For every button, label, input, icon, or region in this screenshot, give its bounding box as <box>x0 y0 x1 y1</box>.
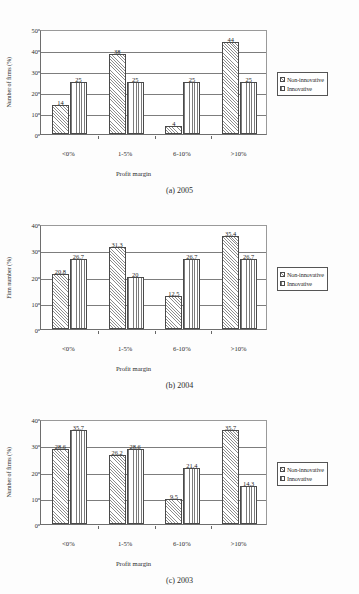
bar-innovative <box>183 468 200 524</box>
x-axis-ticks: <0%1-5%6-10%>10% <box>40 150 267 162</box>
bar-value-label: 35.7 <box>73 424 84 431</box>
x-tick-label: <0% <box>62 150 75 157</box>
bar-value-label: 25 <box>132 76 138 83</box>
y-tick-mark <box>38 135 40 136</box>
x-tick-label: <0% <box>62 345 75 352</box>
y-axis-ticks: 01020304050 <box>20 30 40 135</box>
x-tick-label: >10% <box>231 345 247 352</box>
bar-innovative <box>240 259 257 329</box>
bar-value-label: 20 <box>132 271 138 278</box>
bar-non-innovative <box>52 105 69 134</box>
legend-label-non-innovative: Non-innovative <box>287 466 324 473</box>
legend-label-innovative: Innovative <box>287 280 312 287</box>
y-tick-mark <box>38 303 40 304</box>
figure-caption: (b) 2004 <box>0 381 359 390</box>
y-tick-mark <box>38 72 40 73</box>
chart-legend: Non-innovativeInnovative <box>277 267 328 291</box>
bar-innovative <box>127 277 144 330</box>
legend-item-non-innovative: Non-innovative <box>280 465 324 474</box>
x-axis-label: Profit margin <box>0 170 267 177</box>
bar-non-innovative <box>165 126 182 134</box>
x-tick-mark <box>211 331 212 334</box>
bar-non-innovative <box>165 499 182 524</box>
legend-label-non-innovative: Non-innovative <box>287 76 324 83</box>
bar-innovative <box>183 259 200 329</box>
bar-value-label: 14 <box>57 99 63 106</box>
y-axis-ticks: 010203040 <box>20 420 40 525</box>
x-tick-label: 1-5% <box>118 150 132 157</box>
figure-2005: Number of firms (%)142538254254425010203… <box>0 14 359 199</box>
bar-value-label: 25 <box>189 76 195 83</box>
y-tick-mark <box>38 330 40 331</box>
legend-label-non-innovative: Non-innovative <box>287 271 324 278</box>
axes-frame: 20.826.731.32012.526.735.426.7 <box>40 225 267 330</box>
y-axis-label: Number of firms (%) <box>2 420 14 525</box>
bar-value-label: 20.8 <box>55 268 66 275</box>
x-axis-label: Profit margin <box>0 560 267 567</box>
y-axis-label: Number of firms (%) <box>2 30 14 135</box>
x-tick-mark <box>211 526 212 529</box>
x-tick-label: 6-10% <box>173 540 191 547</box>
x-tick-label: 1-5% <box>118 540 132 547</box>
y-tick-mark <box>38 525 40 526</box>
bar-value-label: 28.6 <box>130 443 141 450</box>
bar-value-label: 14.3 <box>243 480 254 487</box>
vertical-lines-swatch-icon <box>280 281 285 286</box>
y-tick-mark <box>38 51 40 52</box>
figure-caption: (a) 2005 <box>0 186 359 195</box>
bar-non-innovative <box>109 455 126 524</box>
y-tick-mark <box>38 446 40 447</box>
legend-item-innovative: Innovative <box>280 279 324 288</box>
bar-innovative <box>127 82 144 135</box>
chart-legend: Non-innovativeInnovative <box>277 72 328 96</box>
bar-value-label: 38 <box>114 48 120 55</box>
legend-item-innovative: Innovative <box>280 84 324 93</box>
plot-area: Number of firms (%)142538254254425010203… <box>0 14 359 199</box>
y-tick-mark <box>38 93 40 94</box>
x-tick-label: >10% <box>231 150 247 157</box>
x-tick-mark <box>155 526 156 529</box>
bar-innovative <box>70 259 87 329</box>
bar-non-innovative <box>222 430 239 524</box>
vertical-lines-swatch-icon <box>280 86 285 91</box>
bar-value-label: 21.4 <box>186 462 197 469</box>
diagonal-hatch-swatch-icon <box>280 77 285 82</box>
y-tick-mark <box>38 30 40 31</box>
figure-2003: Number of firms (%)28.635.726.228.69.521… <box>0 404 359 589</box>
bar-non-innovative <box>109 247 126 329</box>
bar-value-label: 12.5 <box>168 290 179 297</box>
bar-innovative <box>183 82 200 135</box>
bar-non-innovative <box>52 449 69 524</box>
chart-legend: Non-innovativeInnovative <box>277 462 328 486</box>
x-axis-ticks: <0%1-5%6-10%>10% <box>40 345 267 357</box>
x-tick-mark <box>211 136 212 139</box>
bar-value-label: 9.5 <box>170 493 178 500</box>
plot-area: Number of firms (%)28.635.726.228.69.521… <box>0 404 359 589</box>
bar-value-label: 26.2 <box>112 449 123 456</box>
x-tick-mark <box>155 136 156 139</box>
y-tick-mark <box>38 472 40 473</box>
bar-value-label: 4 <box>172 120 175 127</box>
bar-innovative <box>240 82 257 135</box>
figure-2004: Firm number (%)20.826.731.32012.526.735.… <box>0 209 359 394</box>
bar-innovative <box>70 430 87 524</box>
x-axis-label: Profit margin <box>0 365 267 372</box>
y-axis-label: Firm number (%) <box>2 225 14 330</box>
x-tick-mark <box>98 526 99 529</box>
legend-item-non-innovative: Non-innovative <box>280 270 324 279</box>
bar-value-label: 25 <box>75 76 81 83</box>
legend-item-non-innovative: Non-innovative <box>280 75 324 84</box>
vertical-lines-swatch-icon <box>280 476 285 481</box>
bar-non-innovative <box>222 42 239 134</box>
bar-value-label: 26.7 <box>186 253 197 260</box>
plot-area: Firm number (%)20.826.731.32012.526.735.… <box>0 209 359 394</box>
bar-non-innovative <box>109 54 126 134</box>
bar-non-innovative <box>52 274 69 329</box>
y-tick-mark <box>38 277 40 278</box>
bar-non-innovative <box>222 236 239 329</box>
bar-innovative <box>240 486 257 524</box>
legend-label-innovative: Innovative <box>287 85 312 92</box>
y-axis-label-text: Number of firms (%) <box>5 447 12 498</box>
x-tick-label: 6-10% <box>173 150 191 157</box>
x-tick-mark <box>98 136 99 139</box>
